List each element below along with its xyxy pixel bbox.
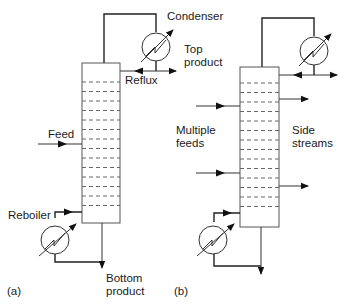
condenser-icon (141, 30, 173, 62)
reboiler-label: Reboiler (8, 209, 51, 221)
bottom-product-label-2: product (106, 285, 145, 297)
reboiler-icon-b (197, 224, 234, 256)
reboiler-return-arrow-icon-b (223, 210, 232, 217)
reboiler-feed-line-b (214, 254, 261, 266)
side-streams-label-1: Side (292, 124, 315, 136)
multiple-feeds-label-1: Multiple (176, 124, 216, 136)
panel-a: Condenser Top product Reflux Feed Reboil… (7, 10, 223, 297)
top-product-label-1: Top (184, 43, 203, 55)
reboiler-icon (39, 224, 76, 256)
panel-a-caption: (a) (7, 285, 21, 297)
multiple-feeds-label-2: feeds (176, 137, 204, 149)
condenser-icon-b (299, 34, 331, 66)
top-product-label-2: product (184, 56, 223, 68)
reflux-label: Reflux (125, 74, 158, 86)
reflux-arrow-icon-b (293, 72, 302, 79)
distillation-diagram: Condenser Top product Reflux Feed Reboil… (0, 0, 348, 306)
side-streams-label-2: streams (292, 137, 333, 149)
condenser-label: Condenser (167, 10, 223, 22)
reboiler-feed-line (55, 254, 102, 262)
reboiler-return-arrow-icon (64, 209, 73, 216)
bottom-product-label-1: Bottom (106, 272, 142, 284)
feed-arrow-icon (58, 141, 67, 148)
panel-b-caption: (b) (174, 285, 188, 297)
feed-arrow-upper-icon (216, 103, 225, 110)
feed-arrow-lower-icon (216, 170, 225, 177)
column-shell-a (82, 63, 120, 223)
column-shell-b (240, 67, 279, 227)
feed-label: Feed (48, 128, 74, 140)
